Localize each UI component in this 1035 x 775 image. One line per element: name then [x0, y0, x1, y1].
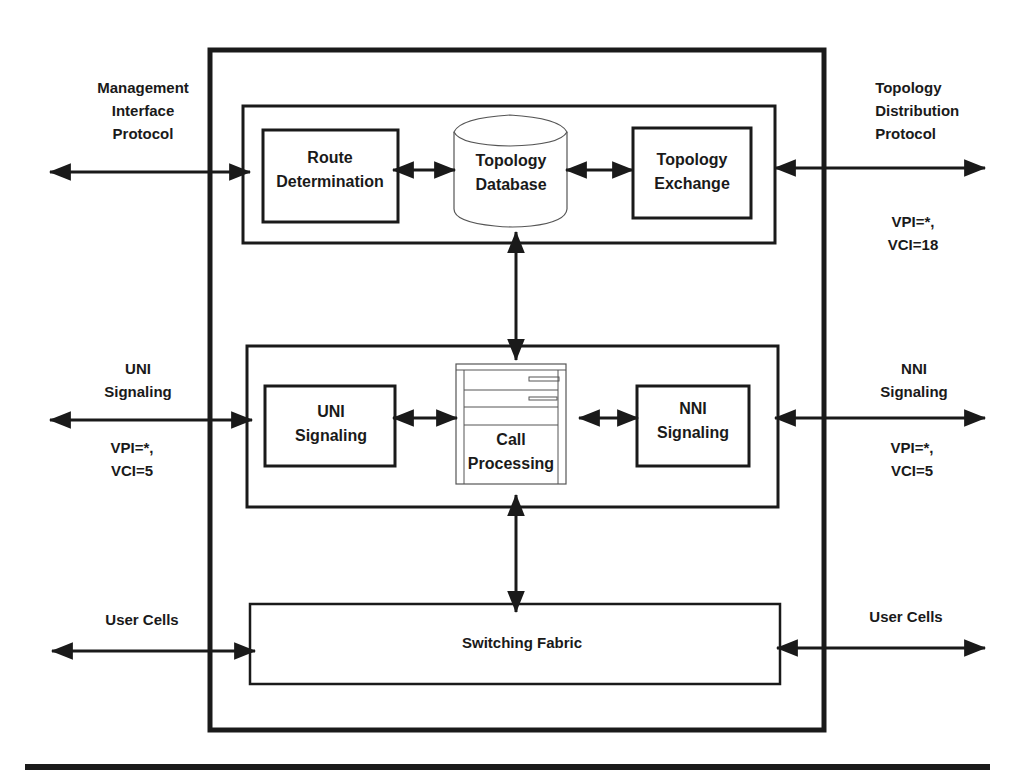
management-protocol-label: Management Interface Protocol	[97, 76, 189, 145]
user-cells-left-label: User Cells	[105, 608, 178, 631]
route-determination-label: Route Determination	[276, 146, 384, 194]
nni-vpi-vci-label: VPI=*, VCI=5	[891, 436, 934, 482]
switching-fabric-label: Switching Fabric	[462, 631, 582, 655]
nni-signaling-external-label: NNI Signaling	[880, 357, 948, 403]
topology-exchange-label: Topology Exchange	[654, 148, 730, 196]
call-processing-label: Call Processing	[468, 428, 554, 476]
topology-database-label: Topology Database	[475, 149, 546, 197]
uni-signaling-external-label: UNI Signaling	[104, 357, 172, 403]
uni-signaling-label: UNI Signaling	[295, 400, 367, 448]
nni-signaling-label: NNI Signaling	[657, 397, 729, 445]
user-cells-right-label: User Cells	[869, 605, 942, 628]
uni-vpi-vci-label: VPI=*, VCI=5	[111, 436, 154, 482]
topology-vpi-vci-label: VPI=*, VCI=18	[888, 210, 938, 256]
topology-distribution-label: Topology Distribution Protocol	[875, 76, 959, 145]
